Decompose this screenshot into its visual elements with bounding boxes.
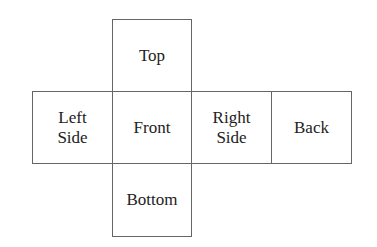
- face-back: Back: [271, 91, 352, 164]
- face-front: Front: [112, 91, 192, 164]
- face-back-label: Back: [294, 118, 329, 138]
- face-bottom: Bottom: [112, 163, 192, 237]
- face-left-side-label: Left Side: [57, 108, 87, 148]
- face-bottom-label: Bottom: [126, 190, 177, 210]
- face-top: Top: [112, 19, 192, 92]
- face-left-side: Left Side: [32, 91, 113, 164]
- face-right-side: Right Side: [191, 91, 272, 164]
- face-top-label: Top: [139, 46, 165, 66]
- face-right-side-label: Right Side: [213, 108, 251, 148]
- face-front-label: Front: [134, 118, 171, 138]
